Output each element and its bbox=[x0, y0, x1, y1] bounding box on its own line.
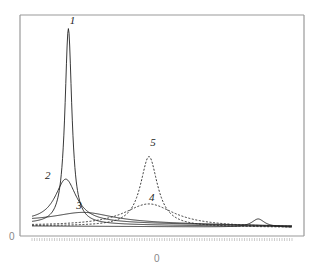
plot-frame bbox=[20, 15, 304, 236]
curve-5 bbox=[32, 157, 292, 227]
spectrum-chart: 12345 0 0 bbox=[0, 0, 318, 269]
y-origin-label: 0 bbox=[9, 231, 15, 242]
curve-3 bbox=[32, 212, 292, 225]
curve-label-5: 5 bbox=[150, 136, 156, 148]
curve-1 bbox=[32, 29, 292, 227]
curve-2 bbox=[32, 179, 292, 226]
curve-label-1: 1 bbox=[70, 14, 76, 26]
curve-label-2: 2 bbox=[45, 169, 51, 181]
curve-labels: 12345 bbox=[45, 14, 156, 211]
curves bbox=[32, 29, 292, 227]
x-axis-ticks bbox=[32, 238, 292, 241]
curve-label-3: 3 bbox=[75, 199, 82, 211]
x-axis-label: 0 bbox=[154, 253, 160, 264]
curve-label-4: 4 bbox=[149, 191, 155, 203]
